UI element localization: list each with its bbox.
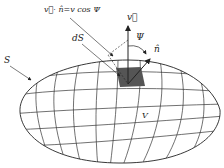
V-label: V <box>142 112 148 120</box>
surface-grid <box>10 58 224 168</box>
angle-psi-arc <box>128 46 146 54</box>
projection-line <box>108 40 128 55</box>
v-label: v⃗ <box>127 13 138 22</box>
psi-label: Ψ <box>136 33 144 42</box>
flux-equation-label: v⃗· n̂=v cos Ψ <box>44 6 100 14</box>
n-label: n̂ <box>154 45 160 54</box>
S-pointer <box>10 66 31 80</box>
dS-label: dS <box>72 34 84 43</box>
diagram-graphics <box>0 0 224 168</box>
flux-diagram: v⃗· n̂=v cos Ψ dS S V v⃗ n̂ Ψ <box>0 0 224 168</box>
S-label: S <box>4 56 10 65</box>
